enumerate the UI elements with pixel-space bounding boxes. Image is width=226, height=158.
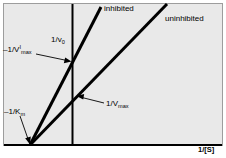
y-axis-quantity-label: 1/v0 [51,35,65,45]
x-axis-label: 1/[S] [198,145,214,154]
neg-inv-km-subscript: m [20,111,25,117]
lineweaver-burk-figure: inhibited uninhibited 1/v0 –1/VImax –1/K… [0,0,226,158]
neg-inv-vmax-inhibited-prefix: –1/V [3,45,19,54]
y-axis-quantity-subscript: 0 [62,39,65,45]
neg-inv-km-prefix: –1/K [4,107,20,116]
inv-vmax-subscript: max [118,103,129,109]
uninhibited-curve-label: uninhibited [165,14,204,23]
plot-canvas [0,0,226,158]
neg-inv-vmax-inhibited-label: –1/VImax [3,45,32,55]
plot-background [4,4,223,146]
neg-inv-km-label: –1/Km [4,107,25,117]
y-axis-quantity-text: 1/v [51,35,62,44]
inhibited-curve-label: inhibited [104,4,134,13]
inv-vmax-label: 1/Vmax [106,99,129,109]
neg-inv-vmax-inhibited-subscript: max [21,49,32,55]
inv-vmax-prefix: 1/V [106,99,118,108]
